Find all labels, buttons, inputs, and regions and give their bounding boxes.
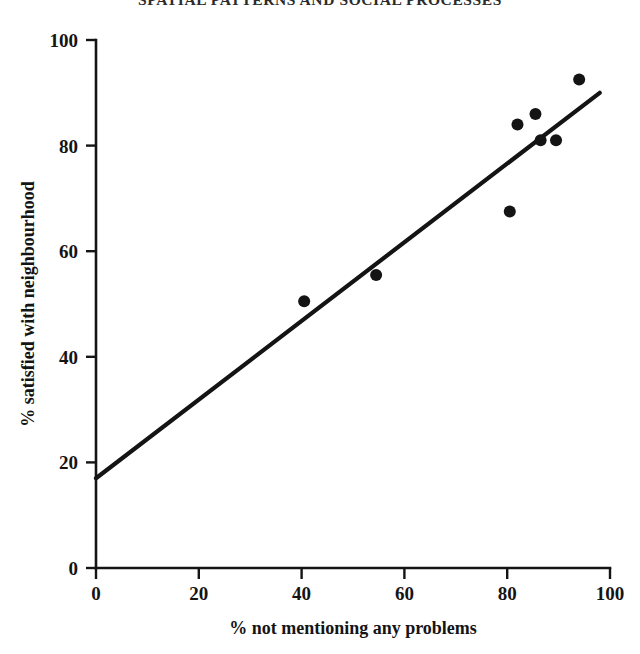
y-axis-title: % satisfied with neighbourhood	[18, 181, 38, 427]
data-point	[573, 74, 585, 86]
x-tick-label-100: 100	[596, 583, 625, 604]
scatter-plot: 0 20 40 60 80 100 0 20 40 60 80 100 % no…	[0, 0, 640, 654]
data-point-group	[298, 74, 585, 308]
figure-container: SPATIAL PATTERNS AND SOCIAL PROCESSES 0 …	[0, 0, 640, 654]
x-tick-label-0: 0	[91, 583, 101, 604]
y-axis-ticks	[86, 40, 96, 568]
y-axis-tick-labels: 0 20 40 60 80 100	[50, 30, 79, 579]
data-point	[511, 118, 523, 130]
y-tick-label-20: 20	[59, 452, 78, 473]
y-tick-label-100: 100	[50, 30, 79, 51]
x-tick-label-40: 40	[292, 583, 311, 604]
y-tick-label-60: 60	[59, 241, 78, 262]
y-tick-label-0: 0	[69, 558, 79, 579]
x-axis-tick-labels: 0 20 40 60 80 100	[91, 583, 624, 604]
x-axis-ticks	[96, 568, 610, 579]
regression-trendline	[96, 93, 600, 478]
x-axis-title: % not mentioning any problems	[229, 618, 477, 638]
data-point	[370, 269, 382, 281]
data-point	[550, 134, 562, 146]
y-tick-label-80: 80	[59, 136, 78, 157]
y-tick-label-40: 40	[59, 347, 78, 368]
data-point	[529, 108, 541, 120]
data-point	[298, 295, 310, 307]
x-tick-label-80: 80	[498, 583, 517, 604]
x-tick-label-60: 60	[395, 583, 414, 604]
x-tick-label-20: 20	[189, 583, 208, 604]
data-point	[535, 134, 547, 146]
data-point	[504, 206, 516, 218]
